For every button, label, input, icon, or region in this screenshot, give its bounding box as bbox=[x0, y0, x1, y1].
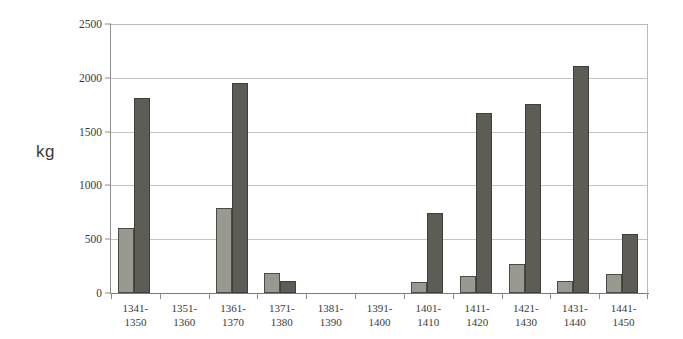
x-tick-mark bbox=[502, 293, 503, 299]
x-tick-label-line: 1440 bbox=[550, 315, 599, 329]
x-tick-label-line: 1361- bbox=[209, 301, 258, 315]
x-tick-label-line: 1441- bbox=[599, 301, 648, 315]
bar-group bbox=[257, 24, 306, 293]
bar-group bbox=[502, 24, 551, 293]
bar-series-2 bbox=[427, 213, 443, 293]
x-tick-label-line: 1360 bbox=[160, 315, 209, 329]
x-tick-label-line: 1371- bbox=[257, 301, 306, 315]
x-tick-label-line: 1370 bbox=[209, 315, 258, 329]
bar-group bbox=[111, 24, 160, 293]
bar-series-1 bbox=[118, 228, 134, 293]
y-tick-label: 2000 bbox=[79, 72, 102, 84]
x-tick-label-line: 1341- bbox=[111, 301, 160, 315]
bar-series-2 bbox=[232, 83, 248, 293]
x-tick-label-line: 1420 bbox=[453, 315, 502, 329]
y-tick-label: 2500 bbox=[79, 18, 102, 30]
x-tick-label: 1421-1430 bbox=[502, 301, 551, 329]
x-tick-mark bbox=[111, 293, 112, 299]
x-tick-label: 1371-1380 bbox=[257, 301, 306, 329]
y-tick-mark bbox=[105, 239, 111, 240]
bar-group bbox=[355, 24, 404, 293]
x-tick-mark bbox=[453, 293, 454, 299]
x-tick-mark bbox=[355, 293, 356, 299]
x-tick-label: 1401-1410 bbox=[404, 301, 453, 329]
bar-group bbox=[160, 24, 209, 293]
x-axis-tick-marks bbox=[111, 293, 648, 300]
x-tick-label: 1341-1350 bbox=[111, 301, 160, 329]
x-tick-mark bbox=[599, 293, 600, 299]
bar-group bbox=[209, 24, 258, 293]
bar-series-1 bbox=[264, 273, 280, 293]
y-tick-label: 1500 bbox=[79, 126, 102, 138]
bar-series-1 bbox=[216, 208, 232, 293]
x-tick-mark bbox=[160, 293, 161, 299]
x-tick-label-line: 1391- bbox=[355, 301, 404, 315]
x-tick-label: 1411-1420 bbox=[453, 301, 502, 329]
x-tick-mark bbox=[550, 293, 551, 299]
y-tick-mark bbox=[105, 77, 111, 78]
y-tick-mark bbox=[105, 131, 111, 132]
x-tick-label: 1361-1370 bbox=[209, 301, 258, 329]
bar-series-2 bbox=[476, 113, 492, 293]
bar-series-2 bbox=[134, 98, 150, 293]
x-tick-mark bbox=[306, 293, 307, 299]
y-tick-mark bbox=[105, 24, 111, 25]
x-axis-tick-labels: 1341-13501351-13601361-13701371-13801381… bbox=[111, 301, 648, 337]
bars-layer bbox=[111, 24, 648, 293]
bar-series-1 bbox=[557, 281, 573, 293]
bar-group bbox=[453, 24, 502, 293]
x-tick-label-line: 1381- bbox=[306, 301, 355, 315]
y-tick-mark bbox=[105, 293, 111, 294]
y-tick-label: 500 bbox=[85, 233, 102, 245]
bar-series-1 bbox=[460, 276, 476, 293]
x-tick-label-line: 1411- bbox=[453, 301, 502, 315]
y-axis-unit-label: kg bbox=[36, 142, 55, 162]
x-tick-mark bbox=[647, 293, 648, 299]
x-tick-label-line: 1410 bbox=[404, 315, 453, 329]
bar-series-1 bbox=[411, 282, 427, 293]
y-tick-mark bbox=[105, 185, 111, 186]
x-tick-label-line: 1401- bbox=[404, 301, 453, 315]
x-tick-label-line: 1421- bbox=[502, 301, 551, 315]
x-tick-label: 1351-1360 bbox=[160, 301, 209, 329]
x-tick-label-line: 1450 bbox=[599, 315, 648, 329]
y-tick-label: 1000 bbox=[79, 179, 102, 191]
x-tick-mark bbox=[404, 293, 405, 299]
bar-group bbox=[550, 24, 599, 293]
y-tick-label: 0 bbox=[96, 287, 102, 299]
x-tick-mark bbox=[209, 293, 210, 299]
bar-group bbox=[404, 24, 453, 293]
y-axis-tick-labels: 05001000150020002500 bbox=[58, 18, 102, 300]
bar-chart: kg 05001000150020002500 1341-13501351-13… bbox=[0, 0, 683, 339]
x-tick-label: 1391-1400 bbox=[355, 301, 404, 329]
bar-series-2 bbox=[573, 66, 589, 293]
x-tick-label-line: 1431- bbox=[550, 301, 599, 315]
x-tick-label-line: 1351- bbox=[160, 301, 209, 315]
bar-series-1 bbox=[606, 274, 622, 293]
x-tick-label-line: 1430 bbox=[502, 315, 551, 329]
x-tick-label-line: 1380 bbox=[257, 315, 306, 329]
bar-group bbox=[599, 24, 648, 293]
x-tick-label-line: 1390 bbox=[306, 315, 355, 329]
x-tick-label-line: 1350 bbox=[111, 315, 160, 329]
bar-series-1 bbox=[509, 264, 525, 293]
bar-group bbox=[306, 24, 355, 293]
bar-series-2 bbox=[622, 234, 638, 293]
x-tick-label: 1431-1440 bbox=[550, 301, 599, 329]
x-tick-label: 1441-1450 bbox=[599, 301, 648, 329]
x-tick-label-line: 1400 bbox=[355, 315, 404, 329]
x-tick-mark bbox=[257, 293, 258, 299]
bar-series-2 bbox=[525, 104, 541, 293]
bar-series-2 bbox=[280, 281, 296, 293]
x-tick-label: 1381-1390 bbox=[306, 301, 355, 329]
